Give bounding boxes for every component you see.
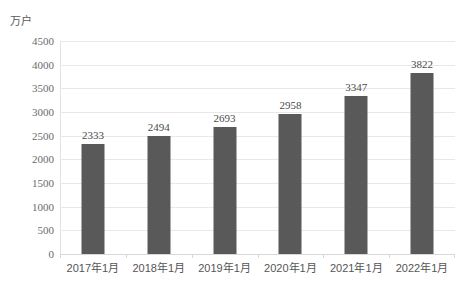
bar[interactable] bbox=[345, 96, 368, 254]
bar-group: 2693 bbox=[192, 41, 258, 254]
bar[interactable] bbox=[411, 73, 434, 254]
bar-group: 2333 bbox=[60, 41, 126, 254]
x-axis-tick-labels: 2017年1月2018年1月2019年1月2020年1月2021年1月2022年… bbox=[60, 259, 455, 279]
x-axis-tick-label: 2019年1月 bbox=[192, 259, 258, 275]
bar[interactable] bbox=[81, 144, 104, 254]
bar[interactable] bbox=[279, 114, 302, 254]
bar-group: 3822 bbox=[389, 41, 455, 254]
y-axis-tick-label: 4500 bbox=[10, 36, 54, 47]
y-axis-tick-labels: 050010001500200025003000350040004500 bbox=[6, 41, 54, 254]
y-axis-tick-label: 500 bbox=[10, 225, 54, 236]
y-axis-tick-label: 1000 bbox=[10, 201, 54, 212]
y-axis-tick-label: 3000 bbox=[10, 107, 54, 118]
y-axis-tick-label: 0 bbox=[10, 249, 54, 260]
bar-value-label: 2333 bbox=[82, 129, 104, 141]
bar-value-label: 3822 bbox=[411, 58, 433, 70]
x-axis-tick bbox=[454, 254, 455, 258]
bar-value-label: 2494 bbox=[148, 121, 170, 133]
x-axis-tick-label: 2017年1月 bbox=[60, 259, 126, 275]
y-axis-tick-label: 4000 bbox=[10, 59, 54, 70]
bar-chart: 万户 050010001500200025003000350040004500 … bbox=[0, 0, 463, 289]
x-axis-tick bbox=[389, 254, 390, 258]
bar-group: 2958 bbox=[258, 41, 324, 254]
y-axis-tick-label: 1500 bbox=[10, 178, 54, 189]
x-axis-tick bbox=[323, 254, 324, 258]
bar-group: 3347 bbox=[323, 41, 389, 254]
plot-area: 233324942693295833473822 bbox=[60, 41, 455, 254]
y-axis-unit-label: 万户 bbox=[10, 12, 32, 28]
x-axis-tick-label: 2022年1月 bbox=[389, 259, 455, 275]
x-axis-tick-label: 2020年1月 bbox=[258, 259, 324, 275]
x-axis-tick bbox=[192, 254, 193, 258]
bar-value-label: 2958 bbox=[279, 99, 301, 111]
y-axis-tick-label: 2500 bbox=[10, 130, 54, 141]
x-axis-tick bbox=[258, 254, 259, 258]
x-axis-tick bbox=[60, 254, 61, 258]
y-axis-tick-label: 2000 bbox=[10, 154, 54, 165]
y-axis-tick-label: 3500 bbox=[10, 83, 54, 94]
bar-group: 2494 bbox=[126, 41, 192, 254]
bar-value-label: 3347 bbox=[345, 81, 367, 93]
x-axis-tick-label: 2018年1月 bbox=[126, 259, 192, 275]
bar[interactable] bbox=[147, 136, 170, 254]
bar-value-label: 2693 bbox=[214, 112, 236, 124]
bar[interactable] bbox=[213, 127, 236, 254]
x-axis-tick bbox=[126, 254, 127, 258]
x-axis-tick-label: 2021年1月 bbox=[323, 259, 389, 275]
